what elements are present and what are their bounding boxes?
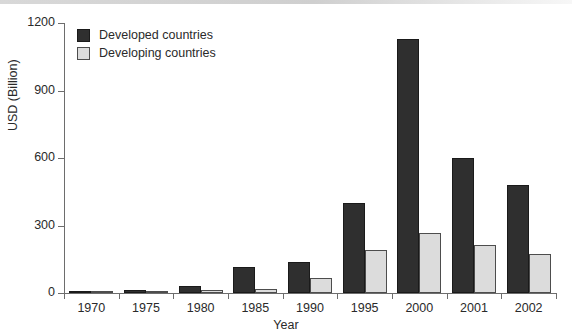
x-category-label-2000: 2000: [392, 301, 447, 315]
bar-1985-developing: [255, 289, 277, 293]
chart-legend: Developed countries Developing countries: [77, 26, 216, 62]
x-axis-line: [64, 293, 556, 294]
y-tick-label: 0: [48, 285, 55, 299]
x-category-label-1990: 1990: [283, 301, 338, 315]
bar-1990-developed: [288, 262, 310, 294]
legend-swatch-developing: [77, 47, 90, 60]
bar-1970-developing: [91, 291, 113, 293]
y-tick-mark: [58, 226, 64, 227]
y-tick-mark: [58, 91, 64, 92]
x-tick-mark: [337, 293, 338, 299]
x-tick-mark: [283, 293, 284, 299]
bar-1985-developed: [233, 267, 255, 293]
legend-item-developing: Developing countries: [77, 44, 216, 62]
bar-1980-developing: [201, 290, 223, 293]
bar-2001-developing: [474, 245, 496, 293]
y-tick-mark: [58, 158, 64, 159]
bar-2002-developing: [529, 254, 551, 293]
bar-2002-developed: [507, 185, 529, 293]
x-tick-mark: [392, 293, 393, 299]
bar-1975-developing: [146, 291, 168, 293]
x-tick-mark: [447, 293, 448, 299]
x-category-label-1995: 1995: [337, 301, 392, 315]
x-category-label-1985: 1985: [228, 301, 283, 315]
bar-1995-developed: [343, 203, 365, 293]
x-tick-mark: [228, 293, 229, 299]
y-axis-title: USD (Billion): [6, 59, 20, 131]
x-tick-mark: [64, 293, 65, 299]
bar-1970-developed: [69, 291, 91, 293]
bar-2000-developed: [397, 39, 419, 293]
bar-chart-figure: 03006009001200 1970197519801985199019952…: [0, 0, 572, 335]
x-category-label-2002: 2002: [501, 301, 556, 315]
y-tick-mark: [58, 23, 64, 24]
x-tick-mark: [173, 293, 174, 299]
x-category-label-1975: 1975: [119, 301, 174, 315]
x-category-label-2001: 2001: [447, 301, 502, 315]
x-category-label-1980: 1980: [173, 301, 228, 315]
legend-item-developed: Developed countries: [77, 26, 216, 44]
legend-label-developing: Developing countries: [99, 46, 216, 60]
legend-swatch-developed: [77, 29, 90, 42]
x-axis-title: Year: [0, 318, 572, 332]
bar-1990-developing: [310, 278, 332, 293]
y-tick-label: 900: [34, 83, 55, 97]
plot-area: [64, 23, 556, 293]
x-tick-mark: [501, 293, 502, 299]
bar-2000-developing: [419, 233, 441, 293]
legend-label-developed: Developed countries: [99, 28, 213, 42]
x-tick-mark: [119, 293, 120, 299]
x-category-label-1970: 1970: [64, 301, 119, 315]
scan-artifact-band: [0, 0, 572, 4]
y-tick-label: 600: [34, 150, 55, 164]
bar-1975-developed: [124, 290, 146, 293]
bar-1980-developed: [179, 286, 201, 293]
y-tick-label: 300: [34, 218, 55, 232]
bar-1995-developing: [365, 250, 387, 293]
y-tick-label: 1200: [27, 15, 55, 29]
x-tick-mark: [556, 293, 557, 299]
bar-2001-developed: [452, 158, 474, 293]
